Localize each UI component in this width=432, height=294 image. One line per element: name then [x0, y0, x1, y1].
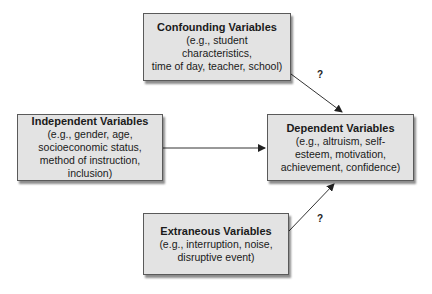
dependent-variables-box: Dependent Variables (e.g., altruism, sel…	[267, 114, 414, 181]
dependent-description: (e.g., altruism, self- esteem, motivatio…	[281, 135, 401, 174]
independent-title: Independent Variables	[32, 115, 149, 128]
extraneous-title: Extraneous Variables	[160, 225, 271, 238]
extraneous-description: (e.g., interruption, noise, disruptive e…	[159, 238, 272, 264]
confounding-title: Confounding Variables	[157, 21, 277, 34]
dependent-title: Dependent Variables	[286, 122, 394, 135]
confounding-question-mark: ?	[317, 69, 323, 80]
arrow-extraneous-to-dependent	[289, 184, 334, 231]
confounding-description: (e.g., student characteristics, time of …	[152, 34, 283, 73]
extraneous-variables-box: Extraneous Variables (e.g., interruption…	[143, 213, 289, 275]
independent-description: (e.g., gender, age, socioeconomic status…	[38, 128, 141, 180]
extraneous-question-mark: ?	[317, 213, 323, 224]
independent-variables-box: Independent Variables (e.g., gender, age…	[17, 114, 163, 181]
confounding-variables-box: Confounding Variables (e.g., student cha…	[143, 13, 291, 81]
